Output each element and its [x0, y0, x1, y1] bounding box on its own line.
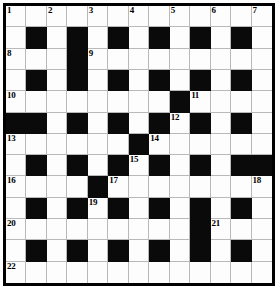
grid-letter-cell[interactable]: [26, 91, 46, 112]
grid-letter-cell[interactable]: 11: [190, 91, 210, 112]
grid-letter-cell[interactable]: [231, 91, 251, 112]
grid-letter-cell[interactable]: [26, 219, 46, 240]
grid-letter-cell[interactable]: 1: [6, 6, 26, 27]
grid-letter-cell[interactable]: [170, 198, 190, 219]
grid-letter-cell[interactable]: [211, 70, 231, 91]
grid-letter-cell[interactable]: [211, 134, 231, 155]
grid-letter-cell[interactable]: [170, 49, 190, 70]
grid-letter-cell[interactable]: [129, 240, 149, 261]
grid-letter-cell[interactable]: 21: [211, 219, 231, 240]
grid-letter-cell[interactable]: [129, 262, 149, 283]
grid-letter-cell[interactable]: [47, 70, 67, 91]
grid-letter-cell[interactable]: [88, 91, 108, 112]
grid-letter-cell[interactable]: 12: [170, 113, 190, 134]
grid-letter-cell[interactable]: [129, 198, 149, 219]
grid-letter-cell[interactable]: [252, 198, 272, 219]
grid-letter-cell[interactable]: 4: [129, 6, 149, 27]
grid-letter-cell[interactable]: [88, 70, 108, 91]
grid-letter-cell[interactable]: [67, 134, 87, 155]
grid-letter-cell[interactable]: [47, 91, 67, 112]
grid-letter-cell[interactable]: [47, 219, 67, 240]
grid-letter-cell[interactable]: [47, 240, 67, 261]
grid-letter-cell[interactable]: [252, 113, 272, 134]
grid-letter-cell[interactable]: [108, 91, 128, 112]
grid-letter-cell[interactable]: [252, 262, 272, 283]
grid-letter-cell[interactable]: [170, 176, 190, 197]
grid-letter-cell[interactable]: 20: [6, 219, 26, 240]
grid-letter-cell[interactable]: [231, 176, 251, 197]
grid-letter-cell[interactable]: 19: [88, 198, 108, 219]
grid-letter-cell[interactable]: [211, 91, 231, 112]
grid-letter-cell[interactable]: [252, 240, 272, 261]
grid-letter-cell[interactable]: [47, 113, 67, 134]
grid-letter-cell[interactable]: [88, 113, 108, 134]
grid-letter-cell[interactable]: [170, 219, 190, 240]
grid-letter-cell[interactable]: [170, 134, 190, 155]
grid-letter-cell[interactable]: [108, 6, 128, 27]
grid-letter-cell[interactable]: [88, 240, 108, 261]
grid-letter-cell[interactable]: [108, 49, 128, 70]
grid-letter-cell[interactable]: [129, 27, 149, 48]
grid-letter-cell[interactable]: [129, 176, 149, 197]
grid-letter-cell[interactable]: 6: [211, 6, 231, 27]
grid-letter-cell[interactable]: [6, 70, 26, 91]
grid-letter-cell[interactable]: [6, 240, 26, 261]
grid-letter-cell[interactable]: [26, 262, 46, 283]
grid-letter-cell[interactable]: [149, 6, 169, 27]
grid-letter-cell[interactable]: 22: [6, 262, 26, 283]
grid-letter-cell[interactable]: 17: [108, 176, 128, 197]
grid-letter-cell[interactable]: [47, 134, 67, 155]
grid-letter-cell[interactable]: [211, 27, 231, 48]
grid-letter-cell[interactable]: 15: [129, 155, 149, 176]
grid-letter-cell[interactable]: [252, 91, 272, 112]
grid-letter-cell[interactable]: [108, 262, 128, 283]
grid-letter-cell[interactable]: [129, 49, 149, 70]
grid-letter-cell[interactable]: [190, 176, 210, 197]
grid-letter-cell[interactable]: 13: [6, 134, 26, 155]
grid-letter-cell[interactable]: [252, 219, 272, 240]
grid-letter-cell[interactable]: [211, 113, 231, 134]
grid-letter-cell[interactable]: [231, 49, 251, 70]
grid-letter-cell[interactable]: [67, 6, 87, 27]
grid-letter-cell[interactable]: [47, 27, 67, 48]
grid-letter-cell[interactable]: 7: [252, 6, 272, 27]
grid-letter-cell[interactable]: [108, 219, 128, 240]
grid-letter-cell[interactable]: [26, 49, 46, 70]
grid-letter-cell[interactable]: 16: [6, 176, 26, 197]
grid-letter-cell[interactable]: [88, 27, 108, 48]
grid-letter-cell[interactable]: [211, 240, 231, 261]
grid-letter-cell[interactable]: [252, 27, 272, 48]
grid-letter-cell[interactable]: 8: [6, 49, 26, 70]
grid-letter-cell[interactable]: 10: [6, 91, 26, 112]
grid-letter-cell[interactable]: [211, 176, 231, 197]
grid-letter-cell[interactable]: [47, 176, 67, 197]
grid-letter-cell[interactable]: [190, 6, 210, 27]
grid-letter-cell[interactable]: [88, 262, 108, 283]
grid-letter-cell[interactable]: [170, 70, 190, 91]
grid-letter-cell[interactable]: [211, 49, 231, 70]
grid-letter-cell[interactable]: [252, 49, 272, 70]
grid-letter-cell[interactable]: [149, 49, 169, 70]
grid-letter-cell[interactable]: [170, 240, 190, 261]
grid-letter-cell[interactable]: [252, 134, 272, 155]
grid-letter-cell[interactable]: [47, 155, 67, 176]
grid-letter-cell[interactable]: [47, 198, 67, 219]
grid-letter-cell[interactable]: [6, 27, 26, 48]
grid-letter-cell[interactable]: [211, 198, 231, 219]
grid-letter-cell[interactable]: [190, 49, 210, 70]
grid-letter-cell[interactable]: 2: [47, 6, 67, 27]
grid-letter-cell[interactable]: [190, 262, 210, 283]
grid-letter-cell[interactable]: [67, 91, 87, 112]
grid-letter-cell[interactable]: [231, 6, 251, 27]
grid-letter-cell[interactable]: [231, 219, 251, 240]
grid-letter-cell[interactable]: [129, 70, 149, 91]
grid-letter-cell[interactable]: [88, 134, 108, 155]
grid-letter-cell[interactable]: [170, 155, 190, 176]
grid-letter-cell[interactable]: [6, 198, 26, 219]
grid-letter-cell[interactable]: [170, 262, 190, 283]
grid-letter-cell[interactable]: [67, 262, 87, 283]
grid-letter-cell[interactable]: [129, 219, 149, 240]
grid-letter-cell[interactable]: [88, 155, 108, 176]
grid-letter-cell[interactable]: [211, 262, 231, 283]
grid-letter-cell[interactable]: 3: [88, 6, 108, 27]
